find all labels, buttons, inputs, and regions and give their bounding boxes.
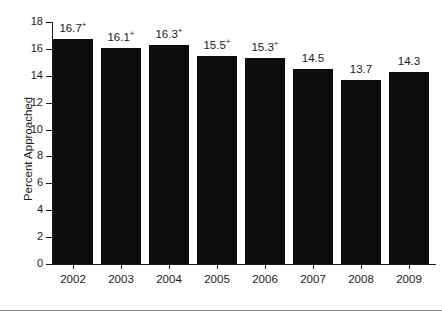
value-marker: + — [274, 39, 279, 48]
x-axis-tick-label: 2005 — [193, 274, 241, 286]
bar — [389, 72, 429, 264]
x-axis-tick-label: 2007 — [289, 274, 337, 286]
x-axis-line — [52, 264, 436, 265]
x-axis-tick — [121, 264, 122, 269]
bar-value-label: 14.3 — [381, 56, 437, 68]
y-axis-tick — [46, 76, 52, 77]
y-axis-tick — [46, 49, 52, 50]
x-axis-tick — [73, 264, 74, 269]
y-axis-tick — [46, 130, 52, 131]
x-axis-tick — [265, 264, 266, 269]
x-axis-tick — [217, 264, 218, 269]
x-axis-tick — [361, 264, 362, 269]
x-axis-tick-label: 2003 — [97, 274, 145, 286]
chart-page: Percent Approached 181614121086420 16.7+… — [0, 0, 442, 316]
y-axis-tick-label: 12 — [0, 97, 43, 108]
bar — [53, 39, 93, 264]
y-axis-tick-label: 18 — [0, 16, 43, 27]
bar-value-label: 16.3+ — [141, 29, 197, 41]
bar-chart: Percent Approached 181614121086420 16.7+… — [0, 0, 442, 316]
y-axis-tick — [46, 264, 52, 265]
y-axis-tick — [46, 210, 52, 211]
x-axis-tick-label: 2004 — [145, 274, 193, 286]
y-axis-tick-label: 6 — [0, 177, 43, 188]
y-axis-tick — [46, 103, 52, 104]
y-axis-tick — [46, 183, 52, 184]
x-axis-tick — [409, 264, 410, 269]
bar — [197, 56, 237, 264]
bar — [101, 48, 141, 264]
value-marker: + — [226, 37, 231, 46]
x-axis-tick-label: 2009 — [385, 274, 433, 286]
y-axis-tick-label: 4 — [0, 204, 43, 215]
x-axis-tick-label: 2008 — [337, 274, 385, 286]
value-marker: + — [178, 26, 183, 35]
bar — [245, 58, 285, 264]
value-marker: + — [82, 21, 87, 30]
y-axis-tick-label: 14 — [0, 70, 43, 81]
x-axis-tick — [169, 264, 170, 269]
x-axis-tick-label: 2002 — [49, 274, 97, 286]
bar — [293, 69, 333, 264]
y-axis-tick-label: 8 — [0, 150, 43, 161]
footer-divider — [0, 310, 442, 311]
y-axis-tick-label: 10 — [0, 124, 43, 135]
y-axis-tick-label: 2 — [0, 231, 43, 242]
y-axis-tick-label: 16 — [0, 43, 43, 54]
value-marker: + — [130, 29, 135, 38]
y-axis-tick — [46, 156, 52, 157]
y-axis-tick — [46, 237, 52, 238]
x-axis-tick-label: 2006 — [241, 274, 289, 286]
x-axis-tick — [313, 264, 314, 269]
y-axis-tick-label: 0 — [0, 258, 43, 269]
bar — [341, 80, 381, 264]
bar — [149, 45, 189, 264]
